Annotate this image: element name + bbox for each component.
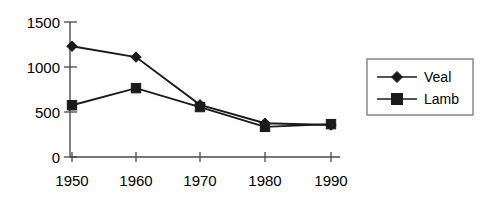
y-axis-tick-label-0: 0 [52,149,60,166]
x-axis-tick-label-1980: 1980 [248,172,281,189]
legend-marker-square-lamb [392,94,403,105]
series-line-veal [72,46,331,125]
x-axis-tick-label-1970: 1970 [183,172,216,189]
line-chart: 1500 1000 500 0 1950 1960 1970 1980 1990… [0,0,482,206]
data-point-veal-1950 [67,41,77,51]
x-axis-tick-label-1950: 1950 [55,172,88,189]
y-axis-tick-label-1000: 1000 [27,59,60,76]
legend-label-lamb: Lamb [424,91,459,107]
legend-label-veal: Veal [424,69,451,85]
data-point-lamb-1950 [67,101,76,110]
x-axis-tick-label-1960: 1960 [119,172,152,189]
data-point-lamb-1960 [131,83,140,92]
data-point-lamb-1980 [260,122,269,131]
series-layer [67,41,336,131]
data-point-lamb-1990 [326,119,335,128]
x-axis-tick-label-1990: 1990 [314,172,347,189]
y-axis-tick-label-500: 500 [35,104,60,121]
chart-screenshot: 1500 1000 500 0 1950 1960 1970 1980 1990… [0,0,482,206]
y-axis-tick-label-1500: 1500 [27,14,60,31]
data-point-lamb-1970 [195,102,204,111]
